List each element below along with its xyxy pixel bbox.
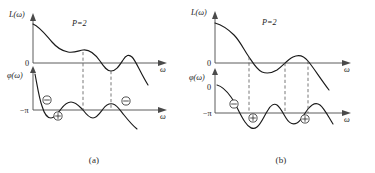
panel-b-magnitude-curve: [215, 23, 329, 90]
panel-b-chart: L(ω) 0 ω P=2 φ(ω) 0 −π ω: [187, 0, 375, 140]
panel-b-phase-minus-pi-label: −π: [203, 109, 213, 118]
panel-b-magnitude-zero-label: 0: [207, 59, 211, 68]
panel-a-marker-minus-2: [122, 97, 130, 105]
panel-a-phase-xlabel: ω: [160, 112, 166, 121]
panel-a-magnitude-ylabel: L(ω): [8, 10, 25, 19]
panel-b-caption: (b): [187, 155, 375, 165]
panel-b-phase-axes: [212, 68, 351, 116]
panel-a: L(ω) 0 ω P=2 φ(ω) −π ω: [0, 0, 188, 173]
panel-b-magnitude-xlabel: ω: [344, 65, 350, 74]
panel-a-caption: (a): [0, 155, 188, 165]
panel-a-dashed-guides: [83, 52, 111, 110]
panel-b-marker-plus-2: [301, 115, 309, 123]
panel-b: L(ω) 0 ω P=2 φ(ω) 0 −π ω: [187, 0, 375, 173]
panel-b-magnitude-ylabel: L(ω): [190, 8, 207, 17]
panel-a-magnitude-curve: [33, 24, 148, 85]
figure-bode-plots: L(ω) 0 ω P=2 φ(ω) −π ω: [0, 0, 375, 173]
panel-a-chart: L(ω) 0 ω P=2 φ(ω) −π ω: [0, 0, 188, 140]
panel-a-marker-plus-1: [54, 112, 62, 120]
panel-b-annotation: P=2: [261, 18, 277, 27]
panel-a-marker-minus-1: [43, 96, 51, 104]
panel-b-phase-ylabel: φ(ω): [189, 73, 205, 82]
panel-a-magnitude-xlabel: ω: [160, 65, 166, 74]
panel-b-phase-xlabel: ω: [344, 115, 350, 124]
panel-a-phase-minus-pi-label: −π: [20, 106, 30, 115]
panel-b-marker-minus-1: [230, 100, 238, 108]
panel-b-marker-plus-1: [249, 114, 257, 122]
panel-b-magnitude-axes: [212, 11, 351, 66]
panel-a-phase-axes: [30, 66, 167, 113]
panel-b-dashed-guides: [249, 57, 308, 113]
panel-b-phase-zero-label: 0: [207, 83, 211, 92]
panel-a-magnitude-zero-label: 0: [25, 59, 29, 68]
panel-a-phase-ylabel: φ(ω): [7, 71, 23, 80]
panel-a-annotation: P=2: [71, 19, 87, 28]
